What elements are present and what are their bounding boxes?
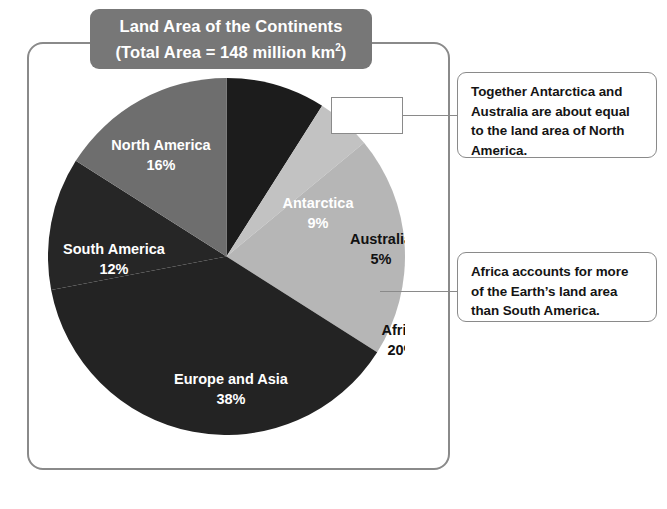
subtitle-prefix: (Total Area = 148 million km — [116, 42, 336, 60]
pie-label-north-america: North America — [111, 137, 211, 153]
pie-value-africa: 20% — [387, 342, 405, 358]
chart-page: Land Area of the Continents (Total Area … — [0, 0, 667, 509]
pie-value-south-america: 12% — [99, 261, 128, 277]
pie-value-europe-and-asia: 38% — [216, 391, 245, 407]
pie-value-australia: 5% — [371, 251, 392, 267]
page-subtitle: (Total Area = 148 million km2) — [116, 37, 347, 63]
page-title: Land Area of the Continents — [119, 16, 342, 37]
pie-value-north-america: 16% — [146, 157, 175, 173]
chart-title-banner: Land Area of the Continents (Total Area … — [90, 9, 372, 69]
callout-africa: Africa accounts for more of the Earth’s … — [457, 252, 657, 322]
callout-2-leader-line — [380, 291, 458, 292]
callout-1-leader-line — [402, 115, 457, 116]
callout-antarctica-australia-text: Together Antarctica and Australia are ab… — [471, 82, 644, 160]
callout-antarctica-australia: Together Antarctica and Australia are ab… — [457, 72, 657, 158]
callout-1-stub-box — [331, 97, 403, 134]
pie-label-australia: Australia — [350, 231, 405, 247]
pie-label-antarctica: Antarctica — [283, 195, 355, 211]
pie-label-europe-and-asia: Europe and Asia — [174, 371, 289, 387]
pie-label-africa: Africa — [381, 322, 405, 338]
subtitle-suffix: ) — [341, 42, 347, 60]
pie-label-south-america: South America — [63, 241, 166, 257]
pie-value-antarctica: 9% — [308, 215, 329, 231]
callout-africa-text: Africa accounts for more of the Earth’s … — [471, 262, 644, 321]
